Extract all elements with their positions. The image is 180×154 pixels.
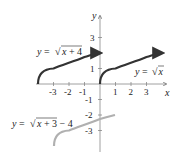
x-tick-label: 1: [113, 87, 118, 97]
x-axis-label: x: [164, 87, 170, 98]
x-tick-label: -2: [64, 87, 72, 97]
svg-text:y =: y =: [36, 46, 50, 57]
y-tick-label: -2: [85, 110, 93, 120]
label-sqrt-x: y = √ x: [134, 66, 164, 77]
x-tick-label: -3: [49, 87, 57, 97]
x-tick-label: 3: [144, 87, 149, 97]
svg-text:√: √: [152, 66, 158, 77]
graph-canvas: -3 -2 -1 1 2 3 3 1 -1 -2 -3 x y y = √ x …: [0, 0, 180, 154]
label-sqrt-x-plus-4: y = √ x + 4: [36, 46, 82, 57]
svg-text:√: √: [55, 46, 61, 57]
svg-text:y =: y =: [11, 118, 25, 129]
svg-text:x + 4: x + 4: [61, 46, 82, 57]
label-sqrt-x-plus-3-minus-4: y = √ x + 3 − 4: [11, 118, 73, 129]
y-tick-label: -1: [85, 95, 93, 105]
svg-text:y =: y =: [134, 66, 148, 77]
y-axis-label: y: [91, 10, 97, 21]
y-tick-label: 1: [90, 64, 95, 74]
svg-text:x + 3 − 4: x + 3 − 4: [36, 118, 73, 129]
x-tick-label: 2: [129, 87, 134, 97]
y-tick-label: -3: [85, 126, 93, 136]
svg-text:√: √: [30, 118, 36, 129]
y-tick-label: 3: [90, 33, 95, 43]
svg-text:x: x: [158, 66, 164, 77]
